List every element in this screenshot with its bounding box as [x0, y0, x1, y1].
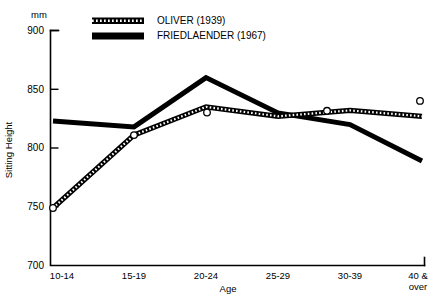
- y-axis-title: Sitting Height: [3, 121, 14, 178]
- data-point-marker: [50, 205, 57, 212]
- legend-swatch-friedlaender: [92, 33, 144, 40]
- x-tick-label-last-line1: 40 &: [408, 270, 428, 281]
- y-tick-label: 750: [27, 201, 44, 212]
- x-axis-title: Age: [220, 283, 237, 294]
- x-tick-label: 10-14: [50, 270, 74, 281]
- x-tick-label: 15-19: [122, 270, 146, 281]
- data-point-marker: [204, 109, 211, 116]
- x-tick-label: 25-29: [266, 270, 290, 281]
- x-tick-labels: 10-14 15-19 20-24 25-29 30-39 40 & over: [50, 270, 429, 292]
- x-tick-label: 20-24: [194, 270, 218, 281]
- data-point-marker: [324, 108, 331, 115]
- legend-label-oliver: OLIVER (1939): [157, 15, 225, 26]
- series-oliver-markers: [50, 98, 424, 212]
- chart-figure: mm Sitting Height Age 900 850 800 750 70…: [0, 0, 433, 300]
- y-unit-label: mm: [31, 9, 47, 20]
- series-oliver-line-base: [53, 107, 422, 208]
- y-tick-label: 800: [27, 142, 44, 153]
- sitting-height-line-chart: mm Sitting Height Age 900 850 800 750 70…: [0, 0, 433, 300]
- data-point-marker: [417, 98, 424, 105]
- y-tick-label: 700: [27, 260, 44, 271]
- legend: OLIVER (1939) FRIEDLAENDER (1967): [92, 15, 266, 41]
- axis-lines: [51, 31, 425, 266]
- x-tick-label: 30-39: [338, 270, 362, 281]
- y-tick-labels: 900 850 800 750 700: [27, 25, 44, 271]
- data-point-marker: [131, 132, 138, 139]
- y-tick-marks: [51, 31, 59, 207]
- y-tick-label: 850: [27, 84, 44, 95]
- y-tick-label: 900: [27, 25, 44, 36]
- x-tick-label-last-line2: over: [409, 281, 427, 292]
- series-friedlaender-line: [53, 78, 422, 161]
- legend-label-friedlaender: FRIEDLAENDER (1967): [157, 30, 266, 41]
